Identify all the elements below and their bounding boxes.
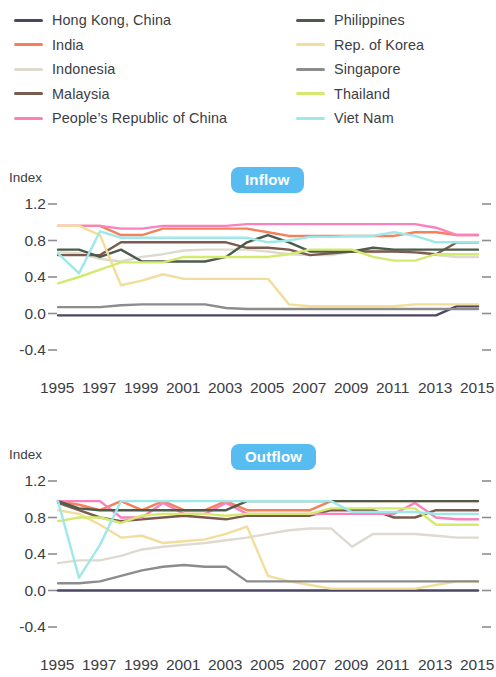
legend-label: Malaysia [52,87,110,101]
y-axis-title: Index [9,170,42,185]
legend-label: Philippines [334,13,405,27]
x-axis-tick-label: 2005 [250,380,284,396]
x-axis-tick-label: 1999 [124,380,158,396]
x-axis-tick-label: 1995 [40,380,74,396]
x-axis-tick-label: 2015 [460,380,494,396]
x-axis-outflow: 1995199719992001200320052007200920112013… [0,657,496,677]
x-axis-tick-label: 2003 [208,657,242,673]
x-axis-tick-label: 2011 [376,657,409,673]
series-line [58,306,478,315]
legend-item[interactable]: Malaysia [14,82,227,107]
x-axis-tick-label: 1995 [40,657,74,673]
legend-swatch-peoples-republic-of-china [14,117,43,120]
x-axis-tick-label: 2007 [292,380,326,396]
x-axis-tick-label: 2001 [166,657,200,673]
legend-swatch-viet-nam [296,117,325,120]
y-axis-tick-label: 0.0 [4,583,46,599]
x-axis-tick-label: 2001 [166,380,200,396]
y-axis-tick-label: 1.2 [4,473,46,489]
x-axis-tick-label: 1997 [82,380,116,396]
line-chart-svg-outflow [0,467,496,653]
legend-swatch-philippines [296,19,325,22]
legend-label: Rep. of Korea [334,38,424,52]
legend-label: Thailand [334,87,390,101]
legend-item[interactable]: Viet Nam [296,106,424,131]
legend-column-right: Philippines Rep. of Korea Singapore Thai… [296,8,424,131]
legend-label: Indonesia [52,62,115,76]
legend-item[interactable]: Indonesia [14,57,227,82]
legend-item[interactable]: People’s Republic of China [14,106,227,131]
legend-item[interactable]: Singapore [296,57,424,82]
legend-item[interactable]: Philippines [296,8,424,33]
y-axis-tick-label: 0.4 [4,269,46,285]
x-axis-inflow: 1995199719992001200320052007200920112013… [0,380,496,404]
legend-item[interactable]: Rep. of Korea [296,33,424,58]
legend-label: Hong Kong, China [52,13,171,27]
legend-swatch-hong-kong-china [14,19,43,22]
legend-item[interactable]: Thailand [296,82,424,107]
y-axis-tick-label: 0.0 [4,306,46,322]
x-axis-tick-label: 2015 [460,657,494,673]
legend-label: Viet Nam [334,111,394,125]
y-axis-title: Index [9,447,42,462]
legend-item[interactable]: Hong Kong, China [14,8,227,33]
x-axis-tick-label: 2003 [208,380,242,396]
legend-swatch-singapore [296,68,325,71]
plot-area-outflow [0,467,496,645]
x-axis-tick-label: 2013 [418,657,452,673]
y-axis-tick-label: -0.4 [4,342,46,358]
legend-swatch-thailand [296,92,325,95]
x-axis-tick-label: 2009 [334,380,368,396]
legend-label: Singapore [334,62,401,76]
y-axis-tick-label: 0.8 [4,510,46,526]
legend-swatch-indonesia [14,68,43,71]
x-axis-tick-label: 2011 [376,380,409,396]
x-axis-tick-label: 2009 [334,657,368,673]
y-axis-tick-label: -0.4 [4,619,46,635]
x-axis-tick-label: 1999 [124,657,158,673]
legend-item[interactable]: India [14,33,227,58]
y-axis-tick-label: 0.4 [4,546,46,562]
legend: Hong Kong, China India Indonesia Malaysi… [0,0,496,145]
legend-label: People’s Republic of China [52,111,227,125]
legend-swatch-rep-of-korea [296,43,325,46]
legend-label: India [52,38,84,52]
y-axis-tick-label: 0.8 [4,233,46,249]
chart-panel-outflow: Index Outflow 19951997199920012003200520… [0,425,496,677]
x-axis-tick-label: 2005 [250,657,284,673]
x-axis-tick-label: 1997 [82,657,116,673]
x-axis-tick-label: 2007 [292,657,326,673]
legend-swatch-india [14,43,43,46]
line-chart-svg-inflow [0,190,496,376]
legend-swatch-malaysia [14,92,43,95]
series-line [58,501,478,578]
plot-area-inflow [0,190,496,368]
y-axis-tick-label: 1.2 [4,196,46,212]
chart-panel-inflow: Index Inflow 199519971999200120032005200… [0,148,496,413]
legend-column-left: Hong Kong, China India Indonesia Malaysi… [14,8,227,131]
series-line [58,528,478,563]
x-axis-tick-label: 2013 [418,380,452,396]
